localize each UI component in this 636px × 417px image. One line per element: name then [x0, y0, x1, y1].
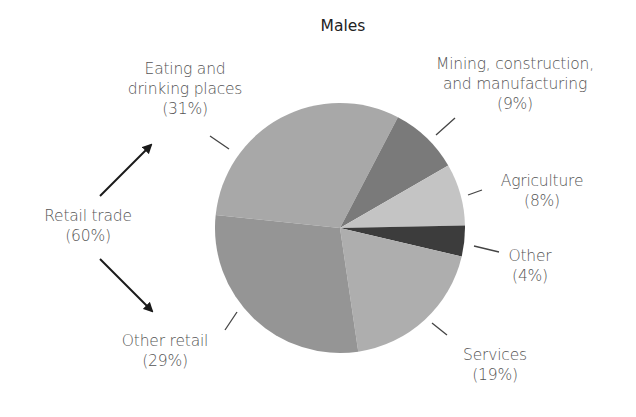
label-other-retail: Other retail (29%)	[105, 331, 225, 371]
arrow-to-other-retail	[100, 259, 152, 311]
label-other-retail-pct: (29%)	[105, 351, 225, 371]
arrow-to-eating	[100, 145, 151, 196]
label-eating-drinking: Eating and drinking places (31%)	[110, 59, 260, 119]
label-services-pct: (19%)	[445, 365, 545, 385]
label-mining: Mining, construction, and manufacturing …	[420, 54, 610, 114]
label-agriculture-pct: (8%)	[487, 191, 597, 211]
label-retail-trade: Retail trade (60%)	[28, 206, 148, 246]
label-services-line1: Services	[445, 345, 545, 365]
label-eating-line1: Eating and	[110, 59, 260, 79]
label-mining-line1: Mining, construction,	[420, 54, 610, 74]
label-eating-line2: drinking places	[110, 79, 260, 99]
label-agriculture-line1: Agriculture	[487, 171, 597, 191]
pie-slices	[215, 103, 465, 353]
label-mining-line2: and manufacturing	[420, 74, 610, 94]
label-mining-pct: (9%)	[420, 94, 610, 114]
label-other-retail-line1: Other retail	[105, 331, 225, 351]
pie-slice-other-retail	[215, 215, 358, 353]
label-other-pct: (4%)	[495, 266, 565, 286]
label-eating-pct: (31%)	[110, 99, 260, 119]
label-services: Services (19%)	[445, 345, 545, 385]
label-agriculture: Agriculture (8%)	[487, 171, 597, 211]
leader-line-other-retail	[225, 312, 237, 330]
label-retail-line1: Retail trade	[28, 206, 148, 226]
leader-line-services	[432, 323, 447, 335]
leader-line-mining	[436, 118, 455, 135]
label-other: Other (4%)	[495, 246, 565, 286]
leader-line-eating	[210, 136, 229, 149]
leader-line-agriculture	[468, 190, 482, 195]
label-retail-pct: (60%)	[28, 226, 148, 246]
label-other-line1: Other	[495, 246, 565, 266]
